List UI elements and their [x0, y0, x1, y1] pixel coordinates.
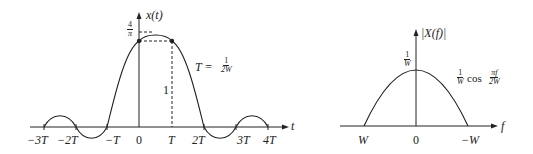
f-axis-label: f: [501, 120, 504, 132]
t-axis-label: t: [291, 120, 294, 132]
tick-W: W: [358, 134, 368, 146]
level-label: 1: [163, 84, 169, 96]
diagram-canvas: [0, 0, 533, 154]
t-axis-arrow-icon: [282, 125, 289, 130]
curve-arg-fraction: πf 2W: [488, 69, 501, 86]
x-t-label: x(t): [146, 9, 163, 21]
peak-fraction: 4 π: [127, 21, 133, 38]
tick-2T: 2T: [192, 134, 205, 146]
Xf-axis-arrow-icon: [414, 29, 419, 36]
tick-neg3T: −3T: [27, 134, 48, 146]
curve-coef-fraction: 1 W: [456, 69, 465, 86]
left-plot: [30, 12, 289, 138]
period-fraction: 1 2W: [220, 57, 233, 74]
curve-func: cos: [467, 73, 482, 84]
point-T: [170, 39, 174, 43]
Xf-peak-fraction: 1 W: [403, 51, 412, 68]
x-t-curve: [44, 35, 268, 138]
tick-f0: 0: [413, 134, 419, 146]
f-axis-arrow-icon: [491, 124, 498, 129]
tick-4T: 4T: [263, 134, 276, 146]
tick-0: 0: [136, 134, 142, 146]
Xf-label: |X(f)|: [421, 27, 446, 39]
period-eq-lhs: T =: [195, 61, 213, 73]
tick-negW: −W: [461, 134, 479, 146]
tick-3T: 3T: [237, 134, 250, 146]
x-axis-arrow-icon: [137, 12, 142, 19]
tick-T: T: [168, 134, 175, 146]
tick-negT: −T: [105, 134, 120, 146]
point-0: [137, 39, 141, 43]
tick-neg2T: −2T: [57, 134, 78, 146]
